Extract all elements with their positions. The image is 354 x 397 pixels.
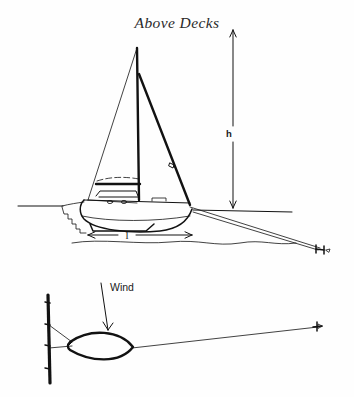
page-title: Above Decks [134, 14, 220, 31]
wind-arrow: Wind [101, 281, 134, 330]
deck-line [84, 200, 190, 203]
bow-line-upper [49, 325, 72, 342]
sea-surface [72, 241, 296, 244]
sailboat-diagram: Above Decks [0, 0, 354, 397]
side-elevation-view: h l [18, 30, 330, 254]
hull-topside [80, 200, 192, 232]
mooring-line-lower [193, 212, 318, 250]
cabin-trunk [96, 191, 138, 196]
length-dimension-label: l [125, 229, 128, 241]
plan-view: Wind [45, 281, 322, 383]
figure-root: Above Decks [0, 0, 354, 397]
waterline-right [193, 210, 292, 212]
dock-tick-1 [45, 302, 50, 303]
wind-arrow-shaft [101, 283, 108, 330]
cockpit-coaming [152, 198, 166, 201]
mooring-marker-icon [316, 245, 330, 254]
reef-line [97, 177, 139, 181]
height-dimension: h [226, 30, 236, 208]
dock-line [48, 295, 50, 383]
hull-plan [68, 333, 133, 360]
dock-tick-3 [45, 345, 50, 346]
mooring-line-plan [132, 327, 318, 348]
main-sail-leech [139, 74, 190, 205]
mast [137, 48, 139, 200]
plan-end-marker-icon [313, 322, 322, 331]
height-dimension-label: h [226, 128, 232, 139]
wind-label: Wind [110, 281, 134, 293]
jib-sail [88, 48, 137, 200]
dock-tick-4 [45, 368, 50, 369]
transom-steps [62, 207, 86, 233]
hull-boot-stripe [82, 216, 190, 221]
